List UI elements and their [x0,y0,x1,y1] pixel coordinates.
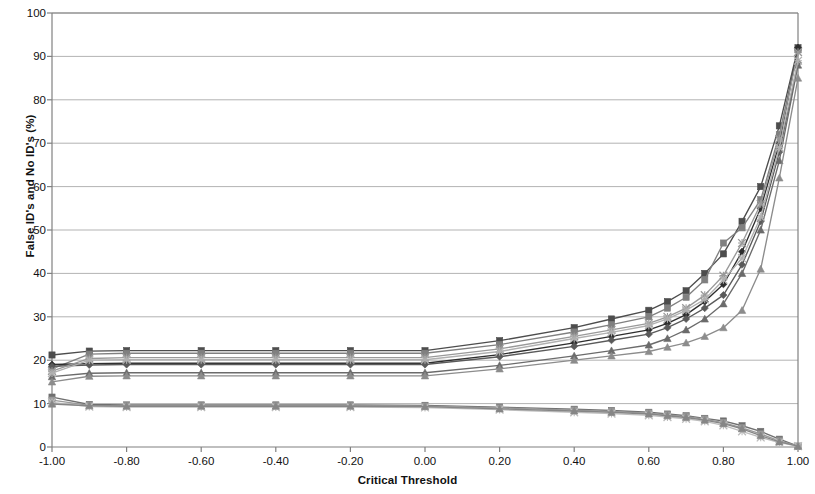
marker-star [272,356,280,364]
x-tick-label: -1.00 [22,455,82,467]
x-tick-label: 0.40 [544,455,604,467]
marker-star [347,356,355,364]
marker-diamond [664,324,671,331]
marker-triangle [682,326,689,333]
marker-star [720,276,728,284]
marker-triangle [701,333,708,340]
series-5 [48,61,801,379]
marker-star [570,335,578,343]
marker-square [664,299,670,305]
marker-star [608,329,616,337]
chart-container: False ID's and No ID's (%) 0102030405060… [0,0,815,494]
marker-star [775,144,783,152]
marker-triangle [664,335,671,342]
marker-square [664,305,670,311]
x-tick-label: -0.20 [320,455,380,467]
marker-star [664,315,672,323]
marker-star [48,369,56,377]
marker-star [757,213,765,221]
marker-diamond [645,331,652,338]
marker-square [646,314,652,320]
marker-star [496,348,504,356]
marker-star [197,356,205,364]
marker-star [85,356,93,364]
x-axis-tick-marks [52,447,798,452]
marker-triangle [757,265,764,272]
marker-star [682,306,690,314]
series-7 [48,48,802,375]
marker-square [608,316,614,322]
series-2 [49,47,801,372]
plot-area [0,0,815,494]
marker-star [794,48,802,56]
data-series-layer [48,44,802,450]
marker-star [421,356,429,364]
marker-triangle [738,307,745,314]
x-tick-label: 0.80 [693,455,753,467]
marker-square [683,288,689,294]
marker-star [123,356,131,364]
marker-square [702,277,708,283]
x-tick-label: -0.80 [97,455,157,467]
marker-star [738,239,746,247]
x-tick-label: 1.00 [768,455,815,467]
marker-square [720,251,726,257]
marker-square [49,352,55,358]
x-tick-label: 0.60 [619,455,679,467]
series-4 [48,59,801,370]
marker-triangle [776,174,783,181]
marker-star [701,296,709,304]
x-axis-tick-labels: -1.00-0.80-0.60-0.40-0.200.000.200.400.6… [0,455,815,475]
marker-star [645,322,653,330]
x-tick-label: 0.20 [470,455,530,467]
marker-triangle [720,300,727,307]
marker-square [646,307,652,313]
x-axis-title: Critical Threshold [0,474,815,486]
marker-square [683,294,689,300]
marker-square [720,240,726,246]
x-tick-label: -0.40 [246,455,306,467]
marker-star [794,57,802,65]
series-8 [48,57,802,377]
marker-square [739,225,745,231]
x-tick-label: 0.00 [395,455,455,467]
x-tick-label: -0.60 [171,455,231,467]
marker-square [758,184,764,190]
marker-star [738,254,746,262]
